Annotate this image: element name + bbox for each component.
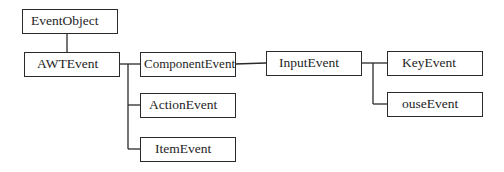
node-actionevent: ActionEvent: [140, 93, 236, 118]
node-label: InputEvent: [279, 55, 339, 70]
node-label: KeyEvent: [402, 55, 456, 70]
node-label: ComponentEvent: [144, 56, 235, 71]
node-label: EventObject: [31, 13, 98, 28]
node-eventobject: EventObject: [22, 9, 118, 34]
node-keyevent: KeyEvent: [387, 51, 483, 76]
node-awtevent: AWTEvent: [24, 52, 120, 77]
node-itemevent: ItemEvent: [140, 137, 236, 162]
node-label: ouseEvent: [402, 96, 458, 111]
node-componentevent: ComponentEvent: [140, 52, 236, 77]
node-label: ActionEvent: [149, 97, 217, 112]
node-inputevent: InputEvent: [266, 51, 362, 76]
node-mouseevent: ouseEvent: [387, 92, 483, 117]
node-label: ItemEvent: [155, 141, 211, 156]
node-label: AWTEvent: [37, 56, 98, 71]
